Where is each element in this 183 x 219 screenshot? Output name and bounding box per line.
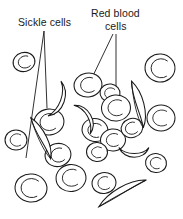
- label-red-blood-cells-line2: cells: [105, 20, 127, 32]
- diagram-canvas: Sickle cells Red blood cells: [0, 0, 183, 219]
- label-sickle-cells: Sickle cells: [18, 16, 71, 28]
- sickle-cell-diagram: Sickle cells Red blood cells: [0, 0, 183, 219]
- red-blood-cell: [147, 105, 175, 131]
- label-red-blood-cells-line1: Red blood: [91, 7, 140, 19]
- red-blood-cell: [5, 130, 27, 150]
